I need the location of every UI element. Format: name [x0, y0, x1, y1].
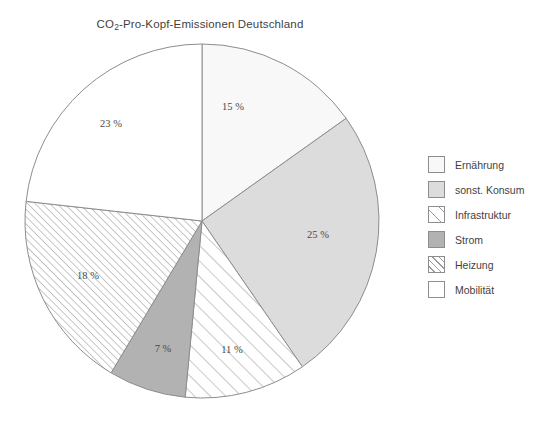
legend-label-infrastruktur: Infrastruktur — [455, 209, 511, 221]
pie-slice-label-ern-hrung: 15 % — [222, 101, 244, 112]
legend-item-sonst-konsum[interactable]: sonst. Konsum — [428, 177, 546, 202]
chart-legend: Ernährungsonst. KonsumInfrastrukturStrom… — [428, 152, 546, 302]
pie-slice-label-heizung: 18 % — [77, 270, 99, 281]
legend-swatch-mobilit-t — [428, 281, 445, 298]
legend-swatch-infrastruktur — [428, 206, 445, 223]
legend-swatch-heizung — [428, 256, 445, 273]
legend-item-strom[interactable]: Strom — [428, 227, 546, 252]
legend-item-ern-hrung[interactable]: Ernährung — [428, 152, 546, 177]
legend-swatch-sonst-konsum — [428, 181, 445, 198]
legend-label-sonst-konsum: sonst. Konsum — [455, 184, 524, 196]
legend-label-mobilit-t: Mobilität — [455, 284, 494, 296]
legend-label-ern-hrung: Ernährung — [455, 159, 504, 171]
pie-chart-figure: CO2-Pro-Kopf-Emissionen Deutschland 15 %… — [0, 0, 549, 424]
legend-item-heizung[interactable]: Heizung — [428, 252, 546, 277]
pie-slices-group — [25, 44, 379, 398]
legend-label-strom: Strom — [455, 234, 483, 246]
pie-slice-label-infrastruktur: 11 % — [221, 344, 243, 355]
pie-slice-label-mobilit-t: 23 % — [100, 118, 122, 129]
pie-slice-label-strom: 7 % — [155, 343, 172, 354]
pie-slice-label-sonst-konsum: 25 % — [307, 229, 329, 240]
legend-item-mobilit-t[interactable]: Mobilität — [428, 277, 546, 302]
legend-swatch-ern-hrung — [428, 156, 445, 173]
legend-swatch-strom — [428, 231, 445, 248]
legend-item-infrastruktur[interactable]: Infrastruktur — [428, 202, 546, 227]
legend-label-heizung: Heizung — [455, 259, 494, 271]
pie-slice-mobilit-t[interactable] — [26, 44, 202, 221]
